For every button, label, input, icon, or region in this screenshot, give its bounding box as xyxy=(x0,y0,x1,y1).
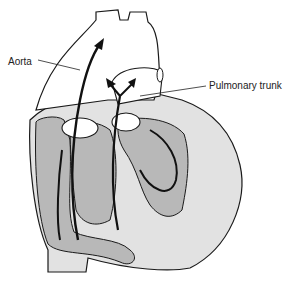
aorta-label: Aorta xyxy=(8,56,32,67)
heart-illustration xyxy=(0,0,287,296)
aortic-valve xyxy=(62,118,98,138)
pulmonary-trunk-label: Pulmonary trunk xyxy=(209,80,282,91)
pulmonary-branch-opening xyxy=(157,68,163,82)
heart-diagram: Aorta Pulmonary trunk xyxy=(0,0,287,296)
